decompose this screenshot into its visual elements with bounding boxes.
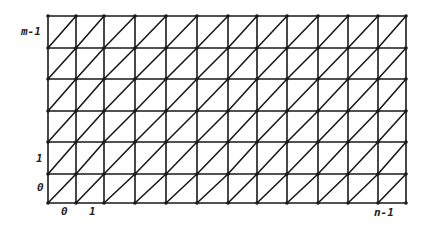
grid-vertex-dot xyxy=(74,14,78,18)
grid-vertex-dot xyxy=(74,109,78,113)
grid-vertex-dot xyxy=(404,14,408,18)
grid-vertex-dot xyxy=(102,14,106,18)
grid-vertex-dot xyxy=(255,14,259,18)
grid-diagonal-line xyxy=(348,48,378,79)
grid-diagonal-line xyxy=(76,48,104,79)
grid-vertex-dot xyxy=(133,109,137,113)
grid-diagonal-line xyxy=(48,48,76,79)
grid-vertex-dot xyxy=(226,46,230,50)
grid-vertex-dot xyxy=(74,172,78,176)
grid-diagonal-line xyxy=(287,111,318,142)
grid-vertex-dot xyxy=(226,201,230,205)
grid-diagonal-line xyxy=(318,48,348,79)
grid-vertex-dot xyxy=(316,46,320,50)
label-y-0: 0 xyxy=(37,181,44,194)
grid-diagonal-line xyxy=(197,142,228,174)
grid-diagonal-line xyxy=(348,142,378,174)
grid-diagonal-line xyxy=(348,174,378,203)
grid-vertex-dot xyxy=(74,46,78,50)
grid-vertex-dot xyxy=(226,140,230,144)
grid-vertex-dot xyxy=(376,172,380,176)
grid-vertex-dot xyxy=(285,140,289,144)
grid-diagonal-line xyxy=(318,79,348,111)
grid-diagonal-line xyxy=(287,79,318,111)
grid-vertex-dot xyxy=(102,140,106,144)
grid-diagonal-line xyxy=(228,142,257,174)
grid-diagonal-line xyxy=(135,174,166,203)
grid-diagonal-line xyxy=(135,111,166,142)
grid-vertex-dot xyxy=(74,140,78,144)
grid-diagonal-line xyxy=(166,16,197,48)
grid-vertex-dot xyxy=(255,201,259,205)
grid-vertex-dot xyxy=(376,201,380,205)
grid-diagonal-line xyxy=(135,16,166,48)
grid-diagonal-line xyxy=(318,174,348,203)
grid-diagonal-line xyxy=(76,111,104,142)
grid-diagonal-line xyxy=(48,142,76,174)
grid-diagonal-line xyxy=(197,16,228,48)
grid-diagonal-line xyxy=(104,79,135,111)
grid-vertex-dot xyxy=(346,201,350,205)
grid-vertex-dot xyxy=(255,172,259,176)
grid-vertex-dot xyxy=(164,14,168,18)
grid-diagonal-line xyxy=(228,174,257,203)
label-x-0: 0 xyxy=(61,205,68,218)
grid-vertex-dot xyxy=(133,172,137,176)
grid-vertex-dot xyxy=(376,140,380,144)
grid-diagonal-line xyxy=(378,174,406,203)
grid-diagonal-line xyxy=(228,16,257,48)
grid-vertex-dot xyxy=(316,201,320,205)
grid-diagonal-line xyxy=(257,142,287,174)
grid-diagonal-line xyxy=(104,48,135,79)
grid-diagonal-line xyxy=(104,111,135,142)
grid-diagonal-line xyxy=(76,16,104,48)
grid-vertex-dot xyxy=(46,140,50,144)
grid-vertex-dot xyxy=(102,201,106,205)
grid-vertex-dot xyxy=(133,77,137,81)
grid-vertex-dot xyxy=(255,140,259,144)
grid-vertex-dot xyxy=(255,46,259,50)
grid-diagonal-line xyxy=(197,174,228,203)
grid-diagonal-line xyxy=(135,48,166,79)
grid-diagonal-line xyxy=(287,174,318,203)
grid-diagonal-line xyxy=(104,174,135,203)
grid-diagonal-line xyxy=(348,16,378,48)
grid-diagonal-line xyxy=(378,111,406,142)
grid-vertex-dot xyxy=(285,77,289,81)
grid-vertex-dot xyxy=(376,77,380,81)
grid-diagonal-line xyxy=(135,142,166,174)
grid-vertex-dot xyxy=(285,109,289,113)
grid-diagonal-line xyxy=(228,48,257,79)
grid-diagonal-line xyxy=(135,79,166,111)
grid-vertex-dot xyxy=(376,46,380,50)
grid-diagonal-line xyxy=(318,111,348,142)
grid-vertex-dot xyxy=(195,77,199,81)
grid-vertex-dot xyxy=(404,140,408,144)
grid-vertex-dot xyxy=(46,172,50,176)
label-x-n-minus-1: n-1 xyxy=(374,206,394,219)
grid-vertex-dot xyxy=(133,201,137,205)
grid-diagonal-line xyxy=(166,142,197,174)
grid-diagonal-line xyxy=(257,48,287,79)
grid-vertex-dot xyxy=(346,14,350,18)
grid-diagonal-line xyxy=(76,174,104,203)
grid-vertex-dot xyxy=(46,46,50,50)
grid-diagonal-line xyxy=(378,142,406,174)
triangulated-grid xyxy=(0,0,429,229)
grid-diagonal-line xyxy=(318,142,348,174)
grid-vertex-dot xyxy=(346,77,350,81)
grid-diagonal-line xyxy=(104,142,135,174)
grid-vertex-dot xyxy=(74,77,78,81)
grid-diagonal-line xyxy=(104,16,135,48)
grid-vertex-dot xyxy=(164,172,168,176)
grid-vertex-dot xyxy=(195,109,199,113)
grid-diagonal-line xyxy=(197,79,228,111)
grid-diagonal-line xyxy=(166,48,197,79)
grid-vertex-dot xyxy=(226,14,230,18)
grid-vertex-dot xyxy=(376,109,380,113)
grid-vertex-dot xyxy=(164,46,168,50)
grid-vertex-dot xyxy=(46,77,50,81)
grid-diagonal-line xyxy=(197,111,228,142)
grid-vertex-dot xyxy=(164,201,168,205)
grid-diagonal-line xyxy=(228,111,257,142)
